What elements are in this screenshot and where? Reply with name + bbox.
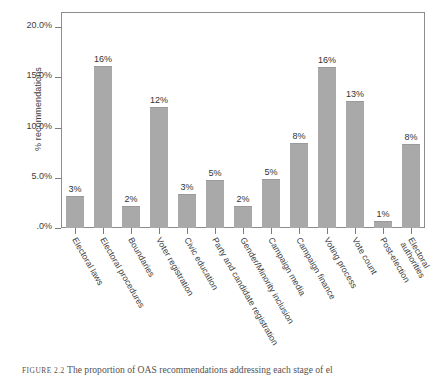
x-axis-tick-mark bbox=[215, 228, 216, 234]
y-axis-tick-label: 15.0% bbox=[26, 70, 52, 80]
bar-item: 12% bbox=[150, 12, 167, 228]
x-axis-tick-mark bbox=[383, 228, 384, 234]
y-axis-tick-label: 20.0% bbox=[26, 20, 52, 30]
bar bbox=[290, 143, 307, 228]
x-axis-tick-mark bbox=[327, 228, 328, 234]
bar-item: 5% bbox=[262, 12, 279, 228]
bar bbox=[262, 179, 279, 228]
bar-value-label: 2% bbox=[220, 194, 265, 204]
y-axis-tick-label: .0% bbox=[36, 221, 52, 231]
x-axis-label: Vote count bbox=[350, 236, 378, 276]
x-axis-tick-mark bbox=[299, 228, 300, 234]
bar bbox=[178, 194, 195, 228]
bar-value-label: 3% bbox=[164, 182, 209, 192]
bar-value-label: 2% bbox=[108, 194, 153, 204]
bar-item: 2% bbox=[122, 12, 139, 228]
x-axis-tick-mark bbox=[103, 228, 104, 234]
x-axis-label: Gender/Minority inclusion bbox=[238, 236, 295, 326]
y-axis-tick-mark bbox=[55, 228, 61, 229]
bar-item: 8% bbox=[290, 12, 307, 228]
figure-caption: FIGURE 2.2 The proportion of OAS recomme… bbox=[22, 364, 434, 376]
caption-figure-number: FIGURE 2.2 bbox=[22, 366, 65, 375]
y-axis-tick-label: 5.0% bbox=[31, 171, 52, 181]
bar-value-label: 5% bbox=[192, 168, 237, 178]
bar-value-label: 1% bbox=[360, 209, 405, 219]
bar-value-label: 16% bbox=[304, 55, 349, 65]
bar bbox=[402, 144, 419, 228]
bar bbox=[374, 221, 391, 228]
bar-series: 3%16%2%12%3%5%2%5%8%16%13%1%8% bbox=[61, 12, 425, 228]
x-axis-tick-mark bbox=[411, 228, 412, 234]
x-axis-tick-mark bbox=[243, 228, 244, 234]
bar-item: 13% bbox=[346, 12, 363, 228]
bar-value-label: 12% bbox=[136, 95, 181, 105]
bar-item: 2% bbox=[234, 12, 251, 228]
bar-value-label: 13% bbox=[332, 89, 377, 99]
x-axis-tick-mark bbox=[271, 228, 272, 234]
bar bbox=[66, 196, 83, 228]
x-axis-tick-mark bbox=[355, 228, 356, 234]
bar-item: 8% bbox=[402, 12, 419, 228]
x-axis-tick-mark bbox=[75, 228, 76, 234]
bar-item: 16% bbox=[318, 12, 335, 228]
bar-value-label: 8% bbox=[388, 132, 433, 142]
figure-bar-chart: % recommendations 20.0%15.0%10.0%5.0%.0%… bbox=[0, 0, 445, 376]
caption-text: The proportion of OAS recommendations ad… bbox=[67, 364, 333, 375]
bar bbox=[150, 107, 167, 228]
x-axis-label: Boundaries bbox=[126, 236, 156, 279]
bar-item: 1% bbox=[374, 12, 391, 228]
bar-value-label: 8% bbox=[276, 131, 321, 141]
bar-value-label: 5% bbox=[248, 167, 293, 177]
y-axis-tick-label: 10.0% bbox=[26, 121, 52, 131]
bar-value-label: 16% bbox=[80, 54, 125, 64]
bar bbox=[234, 206, 251, 228]
x-axis-tick-mark bbox=[187, 228, 188, 234]
bar-item: 3% bbox=[66, 12, 83, 228]
x-axis-tick-mark bbox=[131, 228, 132, 234]
bar bbox=[122, 206, 139, 228]
bar-value-label: 3% bbox=[52, 184, 97, 194]
bar-item: 3% bbox=[178, 12, 195, 228]
x-axis-tick-mark bbox=[159, 228, 160, 234]
